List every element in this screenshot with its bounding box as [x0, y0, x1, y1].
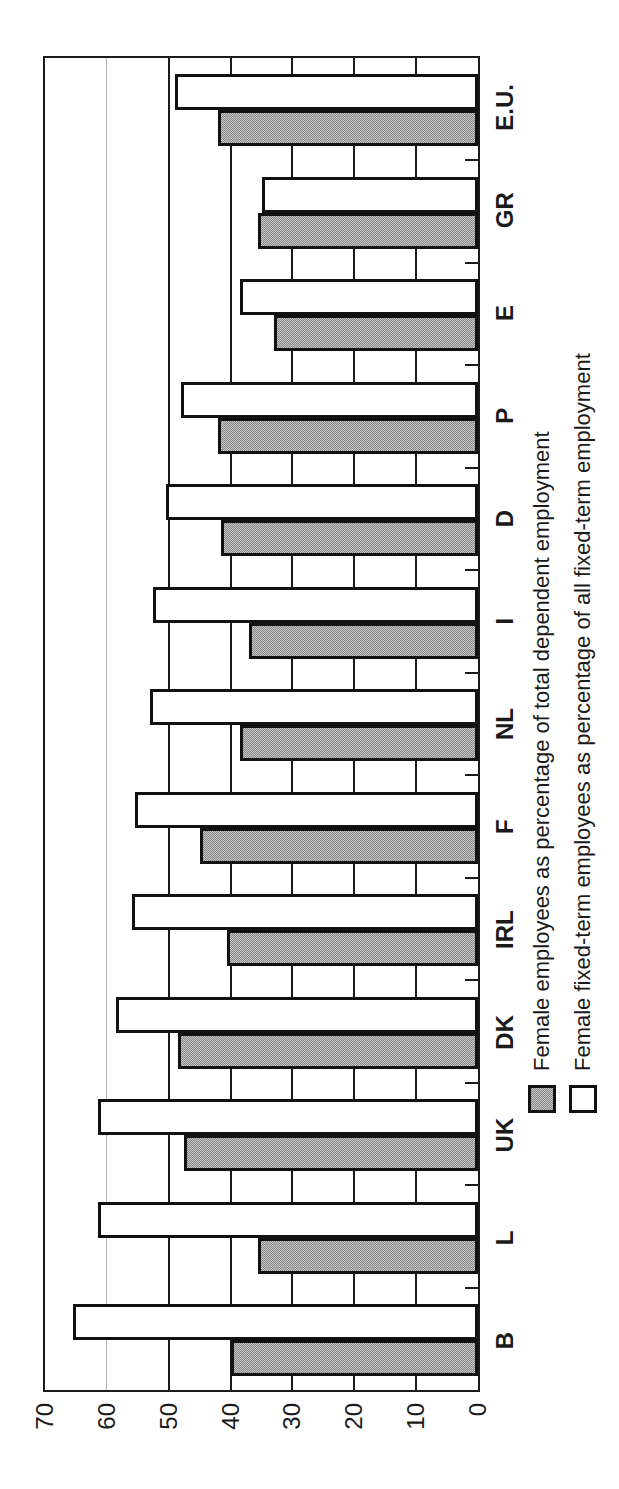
y-tick-label-60: 60	[95, 1403, 119, 1465]
x-axis-label-F: F	[492, 775, 518, 878]
category-axis-tick	[465, 774, 478, 776]
x-axis-label-UK: UK	[492, 1084, 518, 1187]
legend-swatch-white-icon	[569, 1085, 597, 1113]
bar-F-fixed-term	[135, 792, 478, 828]
y-tick-label-70: 70	[33, 1403, 57, 1465]
bar-EU-fixed-term	[175, 74, 478, 110]
bar-DK-fixed-term	[116, 997, 478, 1033]
bar-L-total-dependent	[258, 1238, 478, 1274]
x-axis-label-I: I	[492, 570, 518, 673]
y-tick-label-0: 0	[466, 1403, 490, 1465]
category-axis-tick	[465, 877, 478, 879]
bar-D-total-dependent	[221, 520, 478, 556]
plot-area	[43, 56, 480, 1392]
bar-DK-total-dependent	[178, 1033, 478, 1069]
bar-B-total-dependent	[231, 1340, 478, 1376]
legend-item-total-dependent: Female employees as percentage of total …	[528, 353, 556, 1113]
bar-E-fixed-term	[240, 279, 478, 315]
y-tick-label-40: 40	[219, 1403, 243, 1465]
category-axis-tick	[465, 1082, 478, 1084]
y-tick-label-10: 10	[404, 1403, 428, 1465]
y-tick-label-30: 30	[280, 1403, 304, 1465]
bar-L-fixed-term	[98, 1202, 478, 1238]
x-axis-label-E: E	[492, 262, 518, 365]
bar-NL-total-dependent	[240, 725, 478, 761]
legend-item-fixed-term: Female fixed-term employees as percentag…	[569, 353, 597, 1113]
x-axis-label-NL: NL	[492, 673, 518, 776]
category-axis-tick	[465, 159, 478, 161]
rotated-chart-stage: Female employees as percentage of total …	[0, 0, 619, 1489]
legend: Female employees as percentage of total …	[528, 353, 610, 1113]
category-axis-tick	[465, 672, 478, 674]
x-axis-label-DK: DK	[492, 981, 518, 1084]
x-axis-label-B: B	[492, 1289, 518, 1392]
bar-IRL-fixed-term	[132, 894, 478, 930]
category-axis-tick	[465, 364, 478, 366]
bar-F-total-dependent	[200, 828, 478, 864]
gridline-60	[106, 58, 107, 1390]
x-axis-label-L: L	[492, 1186, 518, 1289]
bar-E-total-dependent	[274, 315, 478, 351]
bar-UK-total-dependent	[184, 1135, 478, 1171]
bar-P-total-dependent	[218, 418, 478, 454]
bar-P-fixed-term	[181, 382, 478, 418]
bar-NL-fixed-term	[150, 689, 478, 725]
category-axis-tick	[465, 467, 478, 469]
x-axis-label-IRL: IRL	[492, 878, 518, 981]
bar-UK-fixed-term	[98, 1099, 478, 1135]
bar-D-fixed-term	[166, 484, 478, 520]
bar-I-fixed-term	[153, 587, 478, 623]
category-axis-tick	[465, 1184, 478, 1186]
bar-I-total-dependent	[249, 623, 478, 659]
y-tick-label-20: 20	[342, 1403, 366, 1465]
x-axis-label-GR: GR	[492, 159, 518, 262]
legend-label-fixed-term: Female fixed-term employees as percentag…	[569, 353, 597, 1071]
y-tick-label-50: 50	[157, 1403, 181, 1465]
category-axis-tick	[465, 979, 478, 981]
x-axis-label-EU: E.U.	[492, 56, 518, 159]
bar-IRL-total-dependent	[227, 930, 478, 966]
x-axis-label-P: P	[492, 364, 518, 467]
category-axis-tick	[465, 569, 478, 571]
legend-swatch-gray-dotted-icon	[528, 1085, 556, 1113]
category-axis-tick	[465, 262, 478, 264]
x-axis-label-D: D	[492, 467, 518, 570]
bar-B-fixed-term	[73, 1304, 478, 1340]
bar-GR-fixed-term	[262, 177, 479, 213]
bar-EU-total-dependent	[218, 110, 478, 146]
bar-GR-total-dependent	[258, 213, 478, 249]
category-axis-tick	[465, 1287, 478, 1289]
legend-label-total-dependent: Female employees as percentage of total …	[528, 431, 556, 1071]
